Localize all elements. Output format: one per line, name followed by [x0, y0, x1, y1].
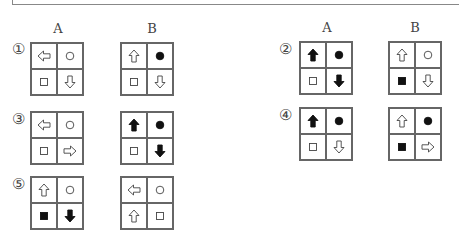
figure-grid-a	[30, 111, 84, 165]
circle-outline-icon	[57, 43, 83, 69]
circle-outline-icon	[57, 177, 83, 203]
circle-outline-icon	[147, 177, 173, 203]
figure-grid-b	[388, 41, 442, 95]
question-frame-border	[12, 0, 459, 5]
arrow-up-outline-icon	[121, 203, 147, 229]
square-filled-icon	[31, 203, 57, 229]
figure-grid-a	[30, 176, 84, 230]
arrow-down-outline-icon	[326, 134, 352, 160]
arrow-left-outline-icon	[31, 43, 57, 69]
figure-grid-b	[388, 107, 442, 161]
square-outline-icon	[31, 138, 57, 164]
circle-filled-icon	[415, 108, 441, 134]
square-outline-icon	[300, 68, 326, 94]
square-filled-icon	[389, 134, 415, 160]
arrow-up-outline-icon	[389, 108, 415, 134]
circle-filled-icon	[326, 42, 352, 68]
arrow-up-outline-icon	[121, 43, 147, 69]
square-outline-icon	[121, 69, 147, 95]
arrow-down-outline-icon	[57, 69, 83, 95]
arrow-down-filled-icon	[57, 203, 83, 229]
problem-number: ①	[12, 40, 25, 58]
arrow-up-filled-icon	[300, 108, 326, 134]
square-filled-icon	[389, 68, 415, 94]
figure-grid-a	[299, 107, 353, 161]
arrow-up-filled-icon	[300, 42, 326, 68]
problem-number: ⑤	[12, 175, 25, 193]
arrow-up-outline-icon	[31, 177, 57, 203]
column-header-a-right: A	[317, 20, 337, 35]
figure-grid-a	[299, 41, 353, 95]
circle-filled-icon	[326, 108, 352, 134]
arrow-right-outline-icon	[415, 134, 441, 160]
circle-outline-icon	[415, 42, 441, 68]
figure-grid-b	[120, 176, 174, 230]
column-header-b-right: B	[405, 20, 425, 35]
circle-outline-icon	[57, 112, 83, 138]
circle-filled-icon	[147, 112, 173, 138]
column-header-b-left: B	[142, 21, 162, 36]
figure-grid-b	[120, 42, 174, 96]
arrow-down-outline-icon	[415, 68, 441, 94]
arrow-left-outline-icon	[121, 177, 147, 203]
square-outline-icon	[121, 138, 147, 164]
column-header-a-left: A	[48, 21, 68, 36]
circle-filled-icon	[147, 43, 173, 69]
arrow-right-outline-icon	[57, 138, 83, 164]
problem-number: ③	[12, 110, 25, 128]
arrow-down-outline-icon	[147, 69, 173, 95]
square-outline-icon	[300, 134, 326, 160]
figure-grid-a	[30, 42, 84, 96]
arrow-up-filled-icon	[121, 112, 147, 138]
square-outline-icon	[147, 203, 173, 229]
arrow-down-filled-icon	[326, 68, 352, 94]
problem-number: ②	[279, 40, 292, 58]
arrow-down-filled-icon	[147, 138, 173, 164]
arrow-up-outline-icon	[389, 42, 415, 68]
square-outline-icon	[31, 69, 57, 95]
arrow-left-outline-icon	[31, 112, 57, 138]
problem-number: ④	[279, 106, 292, 124]
figure-grid-b	[120, 111, 174, 165]
